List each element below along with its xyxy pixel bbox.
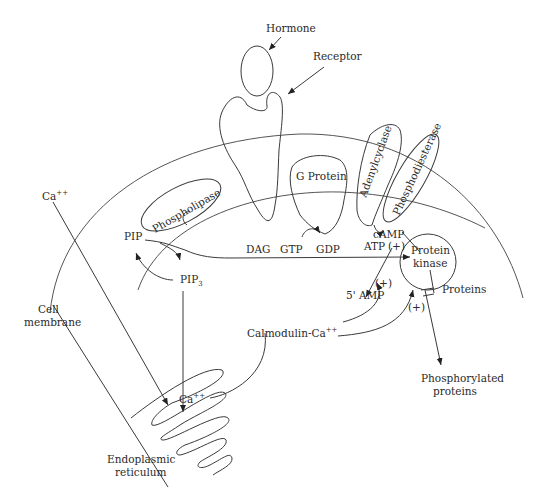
gtp-gdp-arrow [302, 229, 320, 237]
protein-kinase-label-1: Protein [411, 244, 450, 256]
hormone-label: Hormone [266, 22, 316, 34]
receptor-arrow [288, 67, 324, 94]
g-protein-label: G Protein [296, 170, 347, 182]
atp-label: ATP [363, 240, 385, 252]
ca-influx-line [53, 202, 168, 405]
pip3-to-pip-arrow [136, 253, 173, 280]
pip-label: PIP [124, 230, 142, 242]
gtp-label: GTP [280, 243, 302, 255]
receptor-shape [220, 92, 283, 220]
plus-label-atp: (+) [388, 240, 405, 252]
ca-outside-label: Ca++ [42, 189, 68, 202]
gdp-label: GDP [316, 243, 340, 255]
hormone-arrow [269, 37, 281, 50]
calmodulin-label: Calmodulin-Ca++ [247, 326, 338, 339]
cell-signaling-diagram: Hormone Receptor G Protein Adenylcyclase… [0, 0, 551, 498]
plus-label-5amp: (+) [375, 277, 392, 289]
ca-er-label: Ca++ [179, 392, 205, 405]
phosphorylated-label-2: proteins [433, 385, 477, 397]
camp-label: cAMP [373, 228, 404, 240]
cell-membrane-label-1: Cell [38, 303, 60, 315]
calmodulin-er-link [210, 333, 265, 398]
plus-label-calmodulin: (+) [408, 301, 425, 313]
phospholipase-shape [134, 168, 229, 241]
cell-membrane-label-2: membrane [24, 316, 81, 328]
protein-kinase-label-2: kinase [413, 257, 447, 269]
pip3-label: PIP3 [180, 273, 203, 288]
g-protein-shape [290, 156, 347, 234]
to-phosphorylated-arrow [425, 290, 441, 365]
dag-label: DAG [246, 243, 270, 255]
amp5-label: 5' AMP [346, 289, 384, 301]
hormone-shape [241, 46, 273, 96]
proteins-link [421, 270, 434, 296]
er-label-1: Endoplasmic [107, 453, 176, 465]
phospholipase-label: Phospholipase [150, 186, 222, 235]
receptor-label: Receptor [313, 50, 362, 62]
proteins-label: Proteins [442, 283, 486, 295]
pip-to-pip3-arrow [160, 243, 180, 260]
er-label-2: reticulum [115, 466, 167, 478]
phosphorylated-label-1: Phosphorylated [421, 372, 504, 384]
